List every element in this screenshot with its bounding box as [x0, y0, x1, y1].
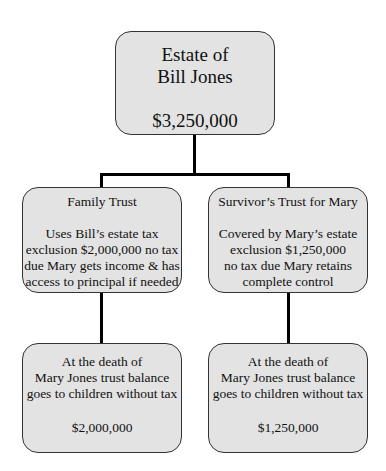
- desc-line: Uses Bill’s estate tax: [24, 226, 180, 242]
- survivors-trust-title: Survivor’s Trust for Mary: [218, 194, 358, 210]
- survivors-trust-description: Covered by Mary’s estate exclusion $1,25…: [219, 226, 357, 290]
- connector-horizontal: [100, 173, 290, 176]
- connector-left-down: [100, 173, 103, 187]
- desc-line: At the death of: [248, 354, 329, 370]
- desc-line: exclusion $2,000,000 no tax: [24, 242, 180, 258]
- desc-line: exclusion $1,250,000: [219, 242, 357, 258]
- family-trust-outcome-node: At the death of Mary Jones trust balance…: [22, 343, 182, 453]
- connector-root-down: [193, 135, 196, 175]
- connector-right-mid-to-bottom: [287, 293, 290, 343]
- root-title-line-1: Estate of: [161, 44, 228, 66]
- root-title-line-2: Bill Jones: [157, 66, 232, 88]
- survivors-trust-outcome-amount: $1,250,000: [258, 420, 319, 436]
- desc-line: complete control: [219, 274, 357, 290]
- connector-right-down: [287, 173, 290, 187]
- root-amount: $3,250,000: [152, 110, 238, 132]
- desc-line: access to principal if needed: [24, 274, 180, 290]
- family-trust-description: Uses Bill’s estate tax exclusion $2,000,…: [24, 226, 180, 290]
- survivors-trust-outcome-node: At the death of Mary Jones trust balance…: [208, 343, 368, 453]
- desc-line: goes to children without tax: [27, 386, 178, 402]
- desc-line: goes to children without tax: [213, 386, 364, 402]
- desc-line: Mary Jones trust balance: [221, 370, 356, 386]
- family-trust-title: Family Trust: [67, 194, 136, 210]
- desc-line: due Mary gets income & has: [24, 258, 180, 274]
- estate-root-node: Estate of Bill Jones $3,250,000: [115, 31, 275, 135]
- desc-line: Mary Jones trust balance: [35, 370, 170, 386]
- desc-line: Covered by Mary’s estate: [219, 226, 357, 242]
- family-trust-outcome-amount: $2,000,000: [72, 420, 133, 436]
- survivors-trust-node: Survivor’s Trust for Mary Covered by Mar…: [208, 187, 368, 293]
- connector-left-mid-to-bottom: [100, 293, 103, 343]
- family-trust-node: Family Trust Uses Bill’s estate tax excl…: [22, 187, 182, 293]
- desc-line: no tax due Mary retains: [219, 258, 357, 274]
- desc-line: At the death of: [62, 354, 143, 370]
